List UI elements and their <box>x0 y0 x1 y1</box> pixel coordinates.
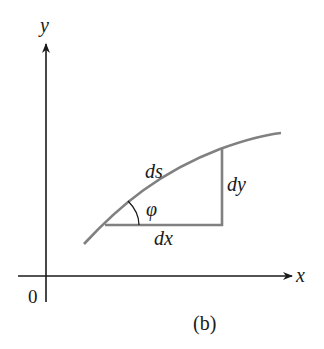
x-axis-label: x <box>295 264 305 286</box>
origin-label: 0 <box>28 286 38 307</box>
phi-label: φ <box>146 198 157 221</box>
dx-label: dx <box>154 227 173 249</box>
y-axis-label: y <box>38 14 49 37</box>
curve <box>84 133 281 244</box>
ds-label: ds <box>145 160 163 182</box>
arc-length-diagram: y x 0 ds φ dy dx (b) <box>0 0 324 349</box>
angle-arc <box>128 201 139 225</box>
dy-label: dy <box>227 173 246 196</box>
figure-caption: (b) <box>193 312 216 335</box>
